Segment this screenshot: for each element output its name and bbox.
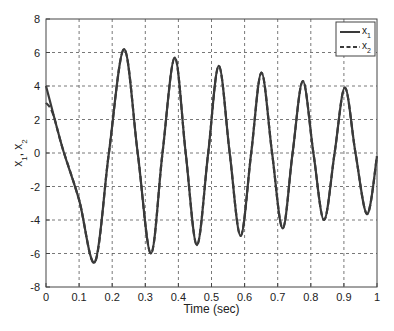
legend: x1x2 [336,22,375,56]
y-tick-label: 4 [34,80,40,92]
x-tick-label: 1 [374,291,380,303]
y-tick-label: -4 [30,214,40,226]
y-tick-label: 0 [34,147,40,159]
y-axis-label-text: x1, x2 [11,139,29,167]
y-tick-label: 8 [34,13,40,25]
grid-lines [46,19,377,287]
x-tick-label: 0.7 [270,291,285,303]
line-chart: 00.10.20.30.40.50.60.70.80.91 -8-6-4-202… [0,0,394,331]
x-tick-label: 0.1 [71,291,86,303]
y-axis-label: x1, x2 [11,139,29,167]
y-tick-label: 6 [34,47,40,59]
y-tick-label: -6 [30,248,40,260]
x-tick-label: 0.3 [138,291,153,303]
x-tick-label: 0.8 [303,291,318,303]
y-tick-label: 2 [34,114,40,126]
x-axis-ticks: 00.10.20.30.40.50.60.70.80.91 [43,283,380,303]
y-tick-label: -2 [30,181,40,193]
x-axis-label: Time (sec) [183,302,239,316]
x-tick-label: 0.9 [336,291,351,303]
y-tick-label: -8 [30,281,40,293]
y-axis-ticks: -8-6-4-202468 [30,13,50,293]
x-tick-label: 0 [43,291,49,303]
x-tick-label: 0.2 [105,291,120,303]
